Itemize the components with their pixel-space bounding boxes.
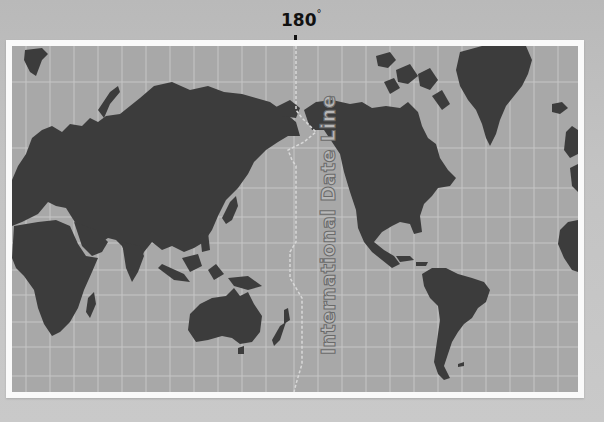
- meridian-180-label: 180°: [281, 10, 322, 30]
- map-graphic: [12, 46, 578, 392]
- landmasses: [12, 46, 578, 380]
- international-date-line-label: International Date Line: [314, 120, 342, 330]
- date-line-text: International Date Line: [317, 95, 339, 355]
- meridian-value: 180: [281, 10, 317, 30]
- degree-symbol: °: [317, 8, 322, 19]
- world-map: [12, 46, 578, 392]
- date-line-path: [288, 46, 316, 392]
